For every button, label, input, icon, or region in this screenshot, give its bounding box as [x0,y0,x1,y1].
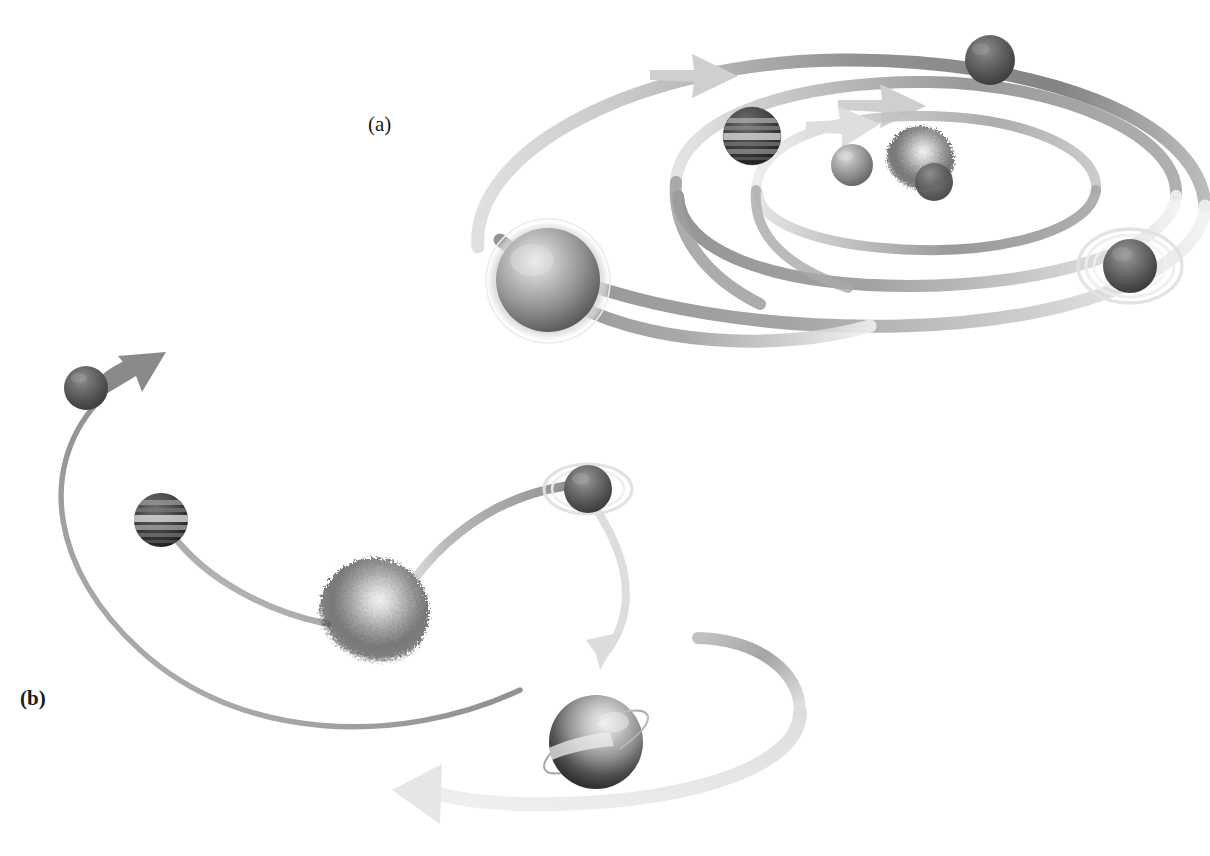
panel-label-a: (a) [368,112,391,137]
body-diffuse-nebular-a [886,126,954,201]
body-small-sphere-top-right-a [965,35,1015,85]
figure-root: (a) (b) [0,0,1210,856]
body-diffuse-central-b [319,558,429,668]
body-large-gray-sphere [486,219,610,343]
panel-b-group [61,352,800,824]
panel-label-b: (b) [20,686,46,711]
trajectory-inner-left-b [172,534,328,624]
body-banded-gas-giant-b [131,493,193,547]
orbital-diagram-canvas [0,0,1210,856]
orbit-inner-a-arrowhead [806,106,880,148]
body-ringed-planet-a [1078,229,1182,303]
body-small-gray-sphere-a [831,144,873,186]
body-small-sphere-upper-left-b [64,366,108,410]
body-tilted-ring-sphere-b [536,695,655,789]
trajectory-lower-sweep-b-arrowhead [392,764,442,824]
panel-a-group [478,35,1205,343]
trajectory-outer-left-b-arrowhead [100,352,166,394]
trajectory-outer-left-b [61,404,520,727]
trajectory-mid-right-b [698,638,800,712]
trajectory-descend-b [586,512,626,670]
